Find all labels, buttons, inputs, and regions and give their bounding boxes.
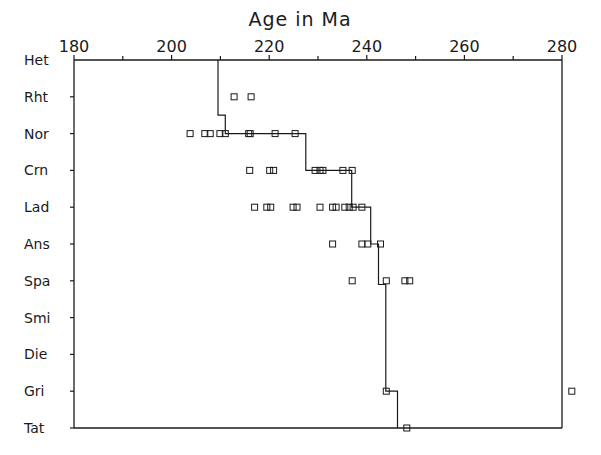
x-tick-label: 280	[547, 37, 578, 56]
chart-title: Age in Ma	[248, 8, 351, 30]
data-point	[231, 94, 237, 100]
y-tick-label: Het	[24, 52, 49, 68]
y-tick-label: Spa	[24, 273, 50, 289]
data-point	[359, 241, 365, 247]
data-point	[267, 167, 273, 173]
data-point	[290, 204, 296, 210]
y-axis: HetRhtNorCrnLadAnsSpaSmiDieGriTat	[23, 52, 74, 436]
data-point	[252, 204, 258, 210]
data-points	[187, 94, 575, 431]
data-point	[365, 241, 371, 247]
data-point	[330, 241, 336, 247]
y-tick-label: Die	[24, 346, 47, 362]
y-tick-label: Crn	[24, 162, 48, 178]
age-stage-chart: Age in Ma 180200220240260280 HetRhtNorCr…	[0, 0, 601, 455]
y-tick-label: Smi	[24, 310, 50, 326]
data-point	[317, 204, 323, 210]
y-tick-label: Gri	[24, 383, 45, 399]
data-point	[247, 167, 253, 173]
x-tick-label: 180	[59, 37, 90, 56]
y-tick-label: Lad	[24, 199, 49, 215]
x-tick-label: 240	[352, 37, 383, 56]
x-tick-label: 220	[254, 37, 285, 56]
data-point	[271, 167, 277, 173]
x-tick-label: 200	[156, 37, 187, 56]
y-tick-label: Tat	[23, 420, 45, 436]
data-point	[187, 131, 193, 137]
data-point	[268, 204, 274, 210]
data-point	[569, 388, 575, 394]
y-tick-label: Rht	[24, 89, 49, 105]
y-tick-label: Ans	[24, 236, 50, 252]
data-point	[342, 204, 348, 210]
x-tick-label: 260	[449, 37, 480, 56]
data-point	[383, 278, 389, 284]
data-point	[349, 278, 355, 284]
y-tick-label: Nor	[24, 126, 49, 142]
data-point	[264, 204, 270, 210]
x-axis: 180200220240260280	[59, 37, 578, 60]
data-point	[294, 204, 300, 210]
data-point	[248, 94, 254, 100]
plot-frame	[74, 60, 562, 428]
